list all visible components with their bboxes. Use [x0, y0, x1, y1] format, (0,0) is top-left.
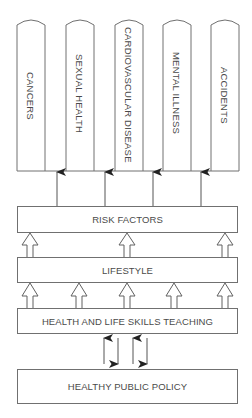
- teaching-to-lifestyle-arrows: [22, 283, 233, 308]
- hollow-arrow-up-icon: [22, 233, 38, 257]
- health-promotion-diagram: CANCERS SEXUAL HEALTH CARDIOVASCULAR DIS…: [0, 0, 252, 418]
- lifestyle-label: LIFESTYLE: [102, 265, 153, 276]
- risk-factors-label: RISK FACTORS: [92, 214, 163, 225]
- hollow-arrow-up-icon: [22, 283, 38, 308]
- hollow-arrow-up-icon: [217, 283, 233, 308]
- pillar-label-mental-illness: MENTAL ILLNESS: [171, 52, 181, 134]
- risk-to-pillars-arrows: [57, 172, 201, 206]
- hollow-arrow-up-icon: [71, 283, 87, 308]
- hollow-arrow-up-icon: [119, 283, 135, 308]
- pillar-label-sexual-health: SEXUAL HEALTH: [74, 54, 84, 133]
- hollow-arrow-up-icon: [217, 233, 233, 257]
- policy-teaching-arrows: [104, 338, 147, 364]
- risk-factors-box: RISK FACTORS: [17, 206, 238, 233]
- healthy-public-policy-box: HEALTHY PUBLIC POLICY: [17, 369, 238, 404]
- health-life-skills-teaching-label: HEALTH AND LIFE SKILLS TEACHING: [42, 316, 213, 327]
- hollow-arrow-up-icon: [119, 233, 135, 257]
- pillar-label-accidents: ACCIDENTS: [219, 67, 229, 124]
- lifestyle-box: LIFESTYLE: [17, 257, 238, 283]
- healthy-public-policy-label: HEALTHY PUBLIC POLICY: [68, 381, 187, 392]
- pillar-label-cardiovascular-disease: CARDIOVASCULAR DISEASE: [123, 27, 133, 163]
- pillar-label-cancers: CANCERS: [25, 72, 35, 120]
- lifestyle-to-risk-arrows: [22, 233, 233, 257]
- hollow-arrow-up-icon: [166, 283, 182, 308]
- health-life-skills-teaching-box: HEALTH AND LIFE SKILLS TEACHING: [17, 308, 238, 334]
